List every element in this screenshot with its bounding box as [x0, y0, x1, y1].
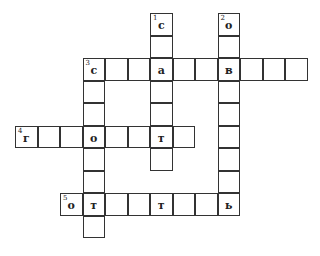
crossword-cell[interactable]: 3с: [83, 58, 106, 81]
crossword-cell[interactable]: [173, 58, 196, 81]
crossword-cell[interactable]: [83, 216, 106, 239]
crossword-cell[interactable]: [83, 103, 106, 126]
crossword-cell[interactable]: [263, 58, 286, 81]
crossword-cell[interactable]: [240, 58, 263, 81]
cell-letter: т: [151, 199, 172, 212]
crossword-cell[interactable]: ь: [218, 193, 241, 216]
crossword-cell[interactable]: 2о: [218, 13, 241, 36]
crossword-cell[interactable]: [128, 126, 151, 149]
crossword-cell[interactable]: [195, 58, 218, 81]
crossword-cell[interactable]: [83, 171, 106, 194]
crossword-cell[interactable]: т: [83, 193, 106, 216]
crossword-cell[interactable]: [60, 126, 83, 149]
crossword-cell[interactable]: в: [218, 58, 241, 81]
crossword-cell[interactable]: [83, 81, 106, 104]
crossword-cell[interactable]: [173, 126, 196, 149]
cell-letter: в: [219, 64, 240, 77]
crossword-cell[interactable]: [83, 148, 106, 171]
crossword-cell[interactable]: [218, 81, 241, 104]
crossword-grid: 1с2о3сав4гот5отть: [0, 0, 320, 256]
crossword-cell[interactable]: [285, 58, 308, 81]
crossword-cell[interactable]: [218, 126, 241, 149]
crossword-cell[interactable]: т: [150, 126, 173, 149]
crossword-cell[interactable]: о: [83, 126, 106, 149]
crossword-cell[interactable]: [150, 148, 173, 171]
crossword-cell[interactable]: [218, 103, 241, 126]
cell-letter: о: [61, 199, 82, 212]
crossword-cell[interactable]: [128, 58, 151, 81]
crossword-cell[interactable]: [38, 126, 61, 149]
cell-letter: т: [84, 199, 105, 212]
crossword-cell[interactable]: [128, 193, 151, 216]
crossword-cell[interactable]: [173, 193, 196, 216]
crossword-cell[interactable]: 1с: [150, 13, 173, 36]
cell-letter: о: [84, 132, 105, 145]
crossword-cell[interactable]: [218, 148, 241, 171]
crossword-cell[interactable]: [218, 36, 241, 59]
crossword-cell[interactable]: [195, 193, 218, 216]
cell-letter: с: [84, 64, 105, 77]
crossword-cell[interactable]: [105, 193, 128, 216]
crossword-cell[interactable]: [105, 126, 128, 149]
cell-letter: г: [16, 132, 37, 145]
crossword-cell[interactable]: 5о: [60, 193, 83, 216]
crossword-cell[interactable]: [105, 58, 128, 81]
crossword-cell[interactable]: а: [150, 58, 173, 81]
crossword-cell[interactable]: 4г: [15, 126, 38, 149]
crossword-cell[interactable]: [150, 81, 173, 104]
crossword-cell[interactable]: [150, 36, 173, 59]
cell-letter: с: [151, 19, 172, 32]
crossword-cell[interactable]: [218, 171, 241, 194]
cell-letter: о: [219, 19, 240, 32]
cell-letter: ь: [219, 199, 240, 212]
crossword-cell[interactable]: т: [150, 193, 173, 216]
crossword-cell[interactable]: [150, 103, 173, 126]
cell-letter: а: [151, 64, 172, 77]
cell-letter: т: [151, 132, 172, 145]
